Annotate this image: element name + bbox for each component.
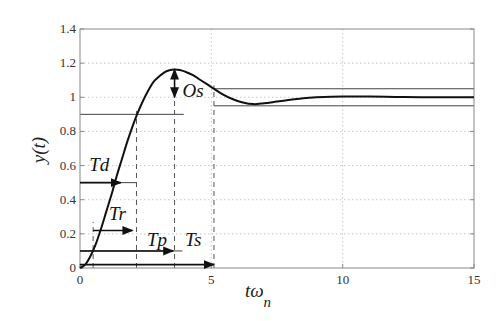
annotation-label: Os bbox=[182, 80, 203, 101]
annotation-tr: Tr bbox=[93, 203, 132, 230]
y-axis-label: y(t) bbox=[28, 137, 50, 165]
annotation-label: Tp bbox=[147, 229, 167, 250]
y-tick-label: 0.4 bbox=[60, 192, 77, 207]
annotation-label: Tr bbox=[109, 203, 127, 224]
grid-lines bbox=[80, 29, 474, 268]
y-tick-label: 0 bbox=[70, 260, 77, 275]
response-curve bbox=[80, 69, 474, 268]
y-tick-label: 0.6 bbox=[60, 158, 77, 173]
y-tick-label: 1 bbox=[70, 89, 77, 104]
y-tick-label: 0.8 bbox=[60, 123, 76, 138]
y-tick-label: 1.2 bbox=[60, 55, 76, 70]
reference-lines bbox=[80, 89, 474, 251]
plot-frame bbox=[80, 29, 474, 268]
annotation-label: Ts bbox=[185, 229, 201, 250]
x-tick-label: 5 bbox=[208, 272, 215, 287]
y-tick-label: 0.2 bbox=[60, 226, 76, 241]
x-axis-label-subscript: n bbox=[264, 294, 272, 310]
x-tick-label: 15 bbox=[468, 272, 481, 287]
annotations: TdTrTpTsOs bbox=[80, 69, 214, 264]
y-tick-label: 1.4 bbox=[60, 21, 77, 36]
annotation-td: Td bbox=[80, 154, 121, 183]
x-tick-label: 10 bbox=[336, 272, 349, 287]
step-response-chart: 00.20.40.60.811.21.4051015 TdTrTpTsOs y(… bbox=[0, 0, 502, 321]
x-tick-label: 0 bbox=[77, 272, 84, 287]
x-axis-label: tωn bbox=[245, 280, 271, 310]
annotation-label: Td bbox=[89, 154, 110, 175]
